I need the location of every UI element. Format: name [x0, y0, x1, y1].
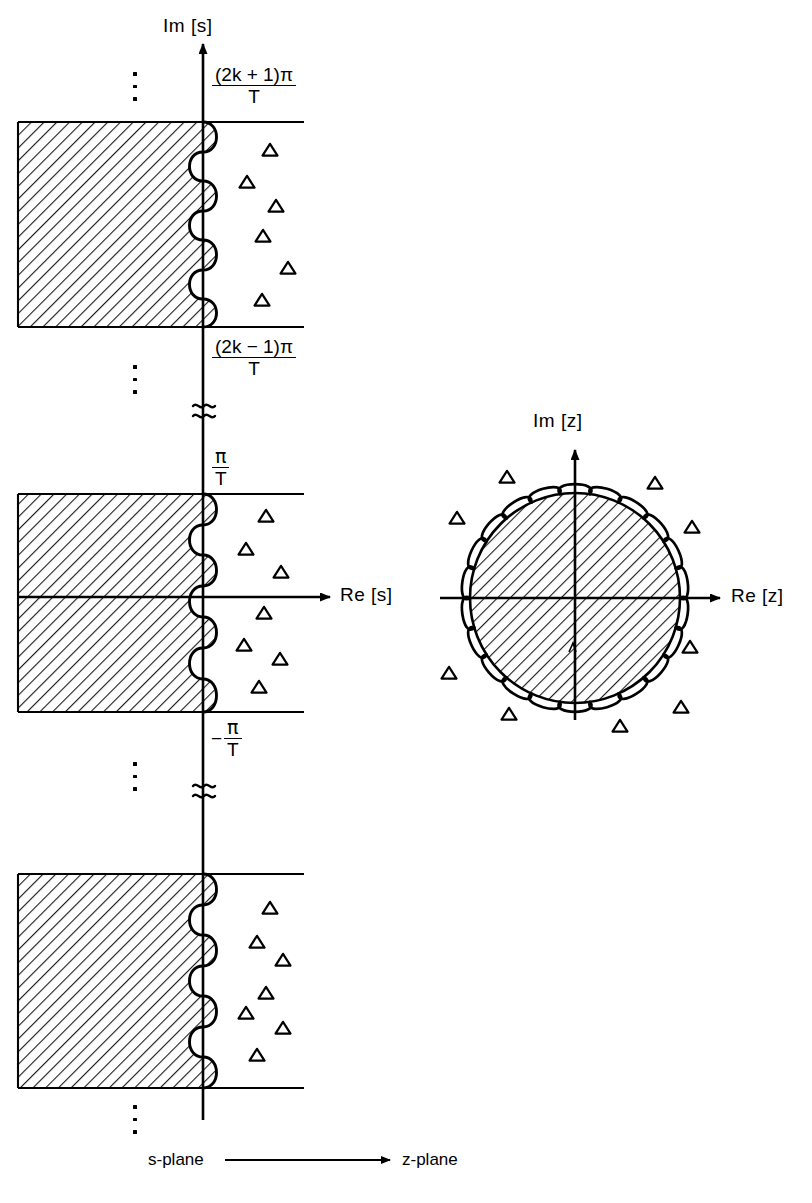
pole-marker [256, 230, 271, 242]
pole-marker [239, 1007, 254, 1019]
pole-marker [500, 471, 515, 483]
pole-marker [263, 144, 278, 156]
minus-sign: − [211, 729, 224, 748]
boundary-label-2k-plus-1: (2k + 1)π T [212, 65, 296, 106]
pole-marker [276, 1022, 291, 1034]
boundary-label-denominator: T [224, 739, 241, 759]
pole-marker [269, 200, 284, 212]
boundary-label-neg-pi-over-t: − π T [211, 718, 242, 759]
figure-canvas: Im [s] Re [s] (2k + 1)π T (2k − 1)π T π … [0, 0, 812, 1203]
boundary-label-numerator: π [224, 718, 241, 739]
pole-marker [502, 708, 517, 720]
pole-marker [259, 510, 274, 522]
pole-marker [259, 987, 274, 999]
pole-marker [263, 902, 278, 914]
real-axis-label-z: Re [z] [731, 586, 784, 605]
z-plane-group [440, 450, 720, 732]
pole-marker [613, 720, 628, 732]
vertical-ellipsis-top [133, 72, 137, 101]
vertical-ellipsis-upper-mid [133, 365, 137, 394]
boundary-label-denominator: T [212, 358, 296, 378]
caption-s-plane: s-plane [148, 1151, 204, 1168]
boundary-label-numerator: (2k − 1)π [212, 337, 296, 358]
pole-marker [674, 701, 689, 713]
pole-marker [237, 639, 252, 651]
pole-marker [648, 477, 663, 489]
pole-marker [685, 521, 700, 533]
s-plane-group [18, 44, 330, 1120]
s-plane-shaded-strips [18, 122, 228, 1088]
boundary-label-denominator: T [212, 468, 229, 488]
vertical-ellipsis-lower-mid [133, 762, 137, 791]
boundary-label-2k-minus-1: (2k − 1)π T [212, 337, 296, 378]
pole-marker [255, 294, 270, 306]
imaginary-axis-label-z: Im [z] [533, 411, 582, 430]
pole-marker [239, 543, 254, 555]
boundary-label-pi-over-t: π T [212, 447, 229, 488]
boundary-label-denominator: T [212, 86, 296, 106]
pole-marker [250, 1049, 265, 1061]
pole-marker [250, 936, 265, 948]
pole-marker [281, 262, 296, 274]
pole-marker [276, 954, 291, 966]
boundary-label-numerator: (2k + 1)π [212, 65, 296, 86]
vertical-ellipsis-bottom [133, 1105, 137, 1134]
imaginary-axis-label-s: Im [s] [163, 16, 212, 35]
pole-marker [240, 176, 255, 188]
caption-z-plane: z-plane [402, 1151, 458, 1168]
real-axis-label-s: Re [s] [340, 585, 393, 604]
boundary-label-numerator: π [212, 447, 229, 468]
pole-marker [274, 566, 289, 578]
pole-marker [450, 512, 465, 524]
pole-marker [683, 641, 698, 653]
pole-marker [273, 653, 288, 665]
diagram-svg [0, 0, 812, 1203]
pole-marker [252, 681, 267, 693]
pole-marker [442, 667, 457, 679]
s-plane-poles [237, 144, 296, 1061]
pole-marker [257, 607, 272, 619]
